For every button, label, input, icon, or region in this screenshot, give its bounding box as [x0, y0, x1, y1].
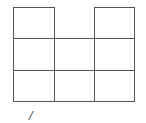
grid-line-left-top: [13, 7, 14, 38]
grid-line-bottom: [13, 101, 135, 102]
pen-stroke-mark: /: [29, 110, 33, 122]
grid-line-left: [13, 38, 14, 102]
grid-line-top-left: [13, 7, 55, 8]
grid-line-top-right: [94, 7, 135, 8]
grid-line-right: [134, 38, 135, 102]
grid-line-row3: [13, 70, 135, 71]
grid-line-col2: [54, 38, 55, 102]
grid-line-col3-top: [94, 7, 95, 38]
grid-line-col2-top: [54, 7, 55, 38]
grid-line-row2: [13, 38, 135, 39]
grid-line-col3: [94, 38, 95, 102]
grid-line-right-top: [134, 7, 135, 38]
